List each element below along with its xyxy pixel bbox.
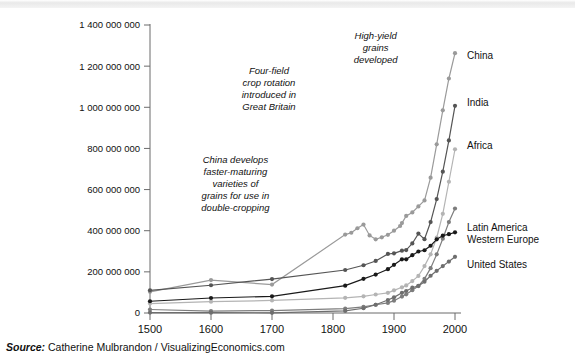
data-point bbox=[416, 249, 420, 253]
x-axis-tick-label: 2000 bbox=[443, 323, 467, 335]
data-point bbox=[416, 204, 420, 208]
series-label-india: India bbox=[467, 97, 489, 108]
annotation-line: introduced in bbox=[242, 89, 296, 100]
data-point bbox=[209, 311, 213, 315]
data-point bbox=[429, 244, 433, 248]
data-point bbox=[400, 257, 404, 261]
data-point bbox=[355, 226, 359, 230]
series-label-western-europe: Western Europe bbox=[467, 234, 540, 245]
data-point bbox=[441, 170, 445, 174]
series-label-united-states: United States bbox=[467, 259, 527, 270]
data-point bbox=[416, 284, 420, 288]
series-line bbox=[150, 209, 455, 312]
data-point bbox=[392, 288, 396, 292]
series-line bbox=[150, 232, 455, 301]
data-point bbox=[416, 231, 420, 235]
x-axis-tick-label: 1600 bbox=[199, 323, 223, 335]
data-point bbox=[441, 234, 445, 238]
data-point bbox=[374, 303, 378, 307]
series-united-states: United States bbox=[148, 255, 527, 315]
data-point bbox=[209, 300, 213, 304]
data-point bbox=[453, 255, 457, 259]
data-point bbox=[447, 220, 451, 224]
data-point bbox=[422, 264, 426, 268]
data-point bbox=[422, 280, 426, 284]
source-text: Catherine Mulbrandon / VisualizingEconom… bbox=[45, 341, 285, 353]
data-point bbox=[410, 253, 414, 257]
data-point bbox=[361, 263, 365, 267]
annotation-line: faster-maturing bbox=[204, 166, 268, 177]
data-point bbox=[209, 296, 213, 300]
annotation-line: High-yield bbox=[355, 30, 398, 41]
data-point bbox=[361, 294, 365, 298]
data-point bbox=[392, 263, 396, 267]
data-point bbox=[209, 278, 213, 282]
data-point bbox=[429, 266, 433, 270]
data-point bbox=[374, 272, 378, 276]
data-point bbox=[148, 310, 152, 314]
data-point bbox=[374, 237, 378, 241]
data-point bbox=[343, 309, 347, 313]
series-label-latin-america: Latin America bbox=[467, 222, 528, 233]
data-point bbox=[447, 76, 451, 80]
population-line-chart: 0200 000 000400 000 000600 000 000800 00… bbox=[0, 0, 575, 340]
data-point bbox=[361, 306, 365, 310]
data-point bbox=[435, 197, 439, 201]
data-point bbox=[400, 294, 404, 298]
data-point bbox=[422, 237, 426, 241]
data-point bbox=[386, 298, 390, 302]
data-point bbox=[374, 292, 378, 296]
data-point bbox=[386, 291, 390, 295]
source-caption: Source: Catherine Mulbrandon / Visualizi… bbox=[6, 341, 285, 353]
data-point bbox=[447, 180, 451, 184]
x-axis-tick-label: 1500 bbox=[138, 323, 162, 335]
data-point bbox=[422, 198, 426, 202]
series-line bbox=[150, 53, 455, 292]
annotation-china-double-cropping: China developsfaster-maturingvarieties o… bbox=[201, 154, 270, 213]
annotation-line: Great Britain bbox=[242, 101, 295, 112]
annotation-high-yield-grains: High-yieldgrainsdeveloped bbox=[354, 30, 399, 65]
data-point bbox=[349, 231, 353, 235]
data-point bbox=[209, 283, 213, 287]
y-axis-tick-label: 1 000 000 000 bbox=[79, 102, 140, 113]
data-point bbox=[392, 251, 396, 255]
data-point bbox=[453, 51, 457, 55]
data-point bbox=[453, 147, 457, 151]
data-point bbox=[400, 291, 404, 295]
data-point bbox=[270, 277, 274, 281]
data-point bbox=[429, 252, 433, 256]
data-point bbox=[270, 298, 274, 302]
data-point bbox=[410, 210, 414, 214]
y-axis-tick-label: 1 200 000 000 bbox=[79, 61, 140, 72]
data-point bbox=[435, 269, 439, 273]
data-point bbox=[447, 259, 451, 263]
data-point bbox=[447, 138, 451, 142]
data-point bbox=[404, 248, 408, 252]
x-axis-tick-label: 1700 bbox=[260, 323, 284, 335]
data-point bbox=[386, 233, 390, 237]
data-point bbox=[416, 274, 420, 278]
data-point bbox=[435, 237, 439, 241]
data-point bbox=[410, 279, 414, 283]
data-point bbox=[404, 283, 408, 287]
data-point bbox=[429, 220, 433, 224]
annotation-line: grains for use in bbox=[202, 190, 270, 201]
y-axis-tick-label: 400 000 000 bbox=[87, 225, 140, 236]
data-point bbox=[441, 108, 445, 112]
data-point bbox=[453, 206, 457, 210]
series-line bbox=[150, 149, 455, 303]
annotation-line: crop rotation bbox=[243, 77, 296, 88]
data-point bbox=[368, 233, 372, 237]
x-axis-tick-label: 1800 bbox=[321, 323, 345, 335]
series-line bbox=[150, 257, 455, 313]
x-axis-tick-label: 1900 bbox=[382, 323, 406, 335]
data-point bbox=[361, 277, 365, 281]
chart-stage: 0200 000 000400 000 000600 000 000800 00… bbox=[0, 0, 575, 364]
data-point bbox=[270, 294, 274, 298]
data-point bbox=[343, 268, 347, 272]
annotation-four-field-crop-rotation: Four-fieldcrop rotationintroduced inGrea… bbox=[242, 65, 296, 112]
data-point bbox=[404, 289, 408, 293]
y-axis-tick-label: 1 400 000 000 bbox=[79, 19, 140, 30]
data-point bbox=[374, 259, 378, 263]
annotation-line: grains bbox=[363, 42, 389, 53]
